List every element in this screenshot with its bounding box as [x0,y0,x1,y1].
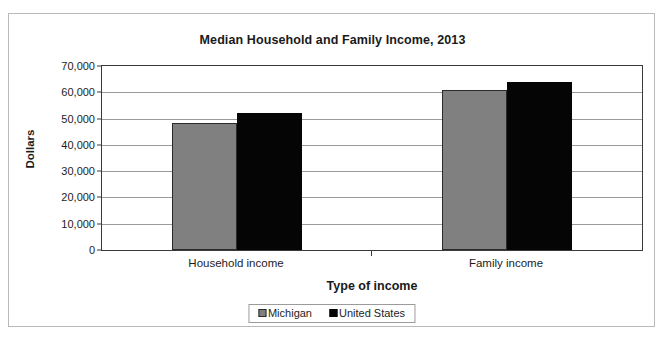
legend-label: Michigan [268,307,312,319]
bar-united-states-household-income [237,113,302,250]
gray-square-icon [258,309,266,317]
y-axis-title: Dollars [24,119,36,179]
bar-michigan-family-income [442,90,507,250]
bar-michigan-household-income [172,123,237,250]
y-tick-label: 60,000 [61,86,95,98]
y-tick-label: 40,000 [61,139,95,151]
black-square-icon [329,309,337,317]
y-tick-mark [97,66,102,67]
legend-item-united-states: United States [329,307,405,319]
y-tick-label: 50,000 [61,113,95,125]
y-tick-label: 20,000 [61,191,95,203]
y-tick-label: 30,000 [61,165,95,177]
y-tick-label: 10,000 [61,218,95,230]
x-category-label: Family income [416,257,596,269]
chart-figure: Median Household and Family Income, 2013… [8,13,655,327]
y-tick-label: 0 [89,244,95,256]
y-tick-mark [97,197,102,198]
y-tick-mark [97,144,102,145]
y-tick-mark [97,92,102,93]
legend-item-michigan: Michigan [258,307,312,319]
y-tick-label: 70,000 [61,60,95,72]
y-tick-mark [97,223,102,224]
y-tick-mark [97,250,102,251]
plot-area: 010,00020,00030,00040,00050,00060,00070,… [101,65,643,251]
y-tick-mark [97,171,102,172]
x-axis-title: Type of income [101,279,643,293]
legend-label: United States [339,307,405,319]
chart-legend: Michigan United States [248,304,415,323]
chart-title: Median Household and Family Income, 2013 [9,33,656,47]
x-axis-separator-tick [371,251,372,256]
bar-united-states-family-income [507,82,572,250]
y-tick-mark [97,118,102,119]
x-category-label: Household income [146,257,326,269]
